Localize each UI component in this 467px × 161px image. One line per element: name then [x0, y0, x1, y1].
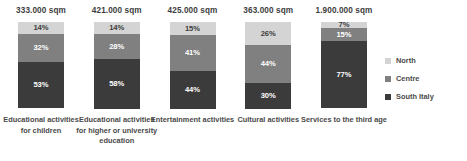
stacked-bar-chart: 333.000 sqm 14% 32% 53% Educational acti…	[0, 0, 467, 161]
column-total-label: 363.000 sqm	[243, 0, 293, 22]
chart-plot-area: 333.000 sqm 14% 32% 53% Educational acti…	[0, 0, 385, 161]
bar-segment-south-italy[interactable]: 44%	[170, 71, 216, 109]
bar-segment-south-italy[interactable]: 30%	[245, 83, 291, 109]
bar-segment-centre[interactable]: 41%	[170, 35, 216, 71]
bar-segment-centre[interactable]: 32%	[18, 34, 64, 62]
stacked-bar[interactable]: 7% 15% 77%	[321, 22, 367, 109]
chart-legend: North Centre South Italy	[385, 56, 461, 101]
category-label: Educational activities for children	[0, 115, 84, 136]
legend-item-centre[interactable]: Centre	[385, 74, 461, 83]
column-total-label: 425.000 sqm	[168, 0, 218, 22]
legend-label: Centre	[396, 74, 419, 83]
legend-swatch-icon	[385, 94, 391, 100]
category-label: Cultural activities	[225, 115, 311, 126]
legend-swatch-icon	[385, 76, 391, 82]
bar-segment-north[interactable]: 15%	[170, 22, 216, 35]
bar-segment-south-italy[interactable]: 53%	[18, 62, 64, 108]
bar-segment-centre[interactable]: 15%	[321, 28, 367, 41]
stacked-bar[interactable]: 26% 44% 30%	[245, 22, 291, 109]
bar-segment-centre[interactable]: 28%	[94, 34, 140, 58]
column-total-label: 1.900.000 sqm	[316, 0, 373, 22]
chart-column: 421.000 sqm 14% 28% 58% Educational acti…	[80, 0, 154, 147]
legend-item-north[interactable]: North	[385, 56, 461, 65]
column-total-label: 333.000 sqm	[16, 0, 66, 22]
category-label: Educational activities for higher or uni…	[74, 115, 160, 147]
bar-segment-north[interactable]: 14%	[18, 22, 64, 34]
legend-item-south-italy[interactable]: South Italy	[385, 92, 461, 101]
chart-column: 333.000 sqm 14% 32% 53% Educational acti…	[4, 0, 78, 136]
legend-swatch-icon	[385, 58, 391, 64]
chart-column: 425.000 sqm 15% 41% 44% Entertainment ac…	[156, 0, 230, 126]
bar-segment-south-italy[interactable]: 77%	[321, 41, 367, 108]
bar-segment-north[interactable]: 14%	[94, 22, 140, 34]
bar-segment-north[interactable]: 26%	[245, 22, 291, 45]
stacked-bar[interactable]: 15% 41% 44%	[170, 22, 216, 109]
legend-label: South Italy	[396, 92, 434, 101]
bar-segment-centre[interactable]: 44%	[245, 45, 291, 83]
stacked-bar[interactable]: 14% 28% 58%	[94, 22, 140, 109]
chart-column: 363.000 sqm 26% 44% 30% Cultural activit…	[231, 0, 305, 126]
category-label: Services to the third age	[301, 115, 387, 126]
bar-segment-south-italy[interactable]: 58%	[94, 59, 140, 109]
column-total-label: 421.000 sqm	[92, 0, 142, 22]
category-label: Entertainment activities	[150, 115, 236, 126]
legend-label: North	[396, 56, 416, 65]
stacked-bar[interactable]: 14% 32% 53%	[18, 22, 64, 109]
chart-column: 1.900.000 sqm 7% 15% 77% Services to the…	[307, 0, 381, 126]
